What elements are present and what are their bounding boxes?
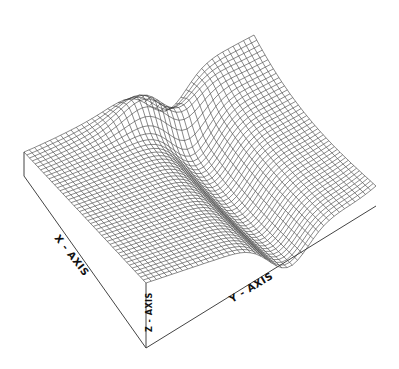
z-axis-label: Z - AXIS: [145, 292, 154, 332]
y-axis-label: Y - AXIS: [227, 270, 275, 305]
x-axis-label: X - AXIS: [52, 232, 91, 278]
surface-plot: X - AXIS Y - AXIS Z - AXIS: [0, 0, 399, 369]
surface-mesh: [24, 35, 376, 283]
